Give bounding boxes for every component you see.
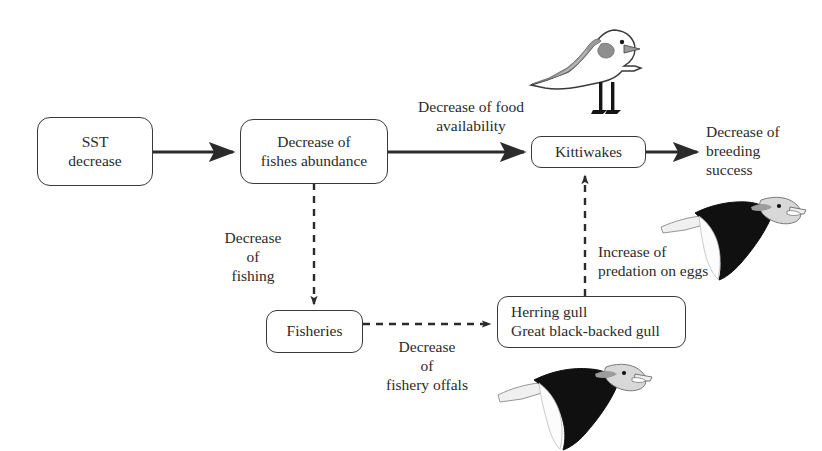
node-sst-decrease[interactable]: SST decrease [37, 117, 153, 186]
edge-label-decrease-of-fishing-line1: Decrease [203, 228, 303, 247]
edge-label-decrease-of-fishing-line3: fishing [203, 266, 303, 285]
edge-label-food-availability-line2: availability [396, 116, 546, 135]
node-kittiwakes[interactable]: Kittiwakes [531, 136, 646, 168]
edge-label-decrease-of-fishing-line2: of [203, 247, 303, 266]
edge-label-breeding-success-line3: success [706, 160, 821, 179]
edge-label-food-availability: Decrease of food availability [396, 97, 546, 135]
edge-label-decrease-of-fishing: Decrease of fishing [203, 228, 303, 286]
diagram-canvas: SST decrease Decrease of fishes abundanc… [0, 0, 822, 451]
node-sst-decrease-line1: SST [68, 133, 121, 152]
edge-label-fishery-offals-line3: fishery offals [366, 375, 488, 394]
edge-label-breeding-success-line1: Decrease of [706, 122, 821, 141]
node-sst-decrease-line2: decrease [68, 152, 121, 171]
edge-label-food-availability-line1: Decrease of food [396, 97, 546, 116]
edge-label-breeding-success: Decrease of breeding success [706, 122, 821, 180]
node-fishes-line1: Decrease of [261, 133, 367, 152]
node-gulls-line2: Great black-backed gull [511, 322, 660, 341]
edge-label-predation-on-eggs-line2: predation on eggs [598, 261, 768, 280]
edge-label-predation-on-eggs: Increase of predation on eggs [598, 242, 768, 280]
node-fisheries-label: Fisheries [287, 322, 343, 341]
node-kittiwakes-label: Kittiwakes [555, 143, 622, 162]
node-gulls[interactable]: Herring gull Great black-backed gull [497, 296, 686, 348]
node-gulls-line1: Herring gull [511, 303, 660, 322]
edge-label-predation-on-eggs-line1: Increase of [598, 242, 768, 261]
edge-label-fishery-offals: Decrease of fishery offals [366, 337, 488, 395]
node-fishes-line2: fishes abundance [261, 152, 367, 171]
node-decrease-of-fishes-abundance[interactable]: Decrease of fishes abundance [240, 119, 388, 184]
edge-label-breeding-success-line2: breeding [706, 141, 821, 160]
edge-label-fishery-offals-line2: of [366, 356, 488, 375]
edge-label-fishery-offals-line1: Decrease [366, 337, 488, 356]
node-fisheries[interactable]: Fisheries [266, 310, 363, 353]
